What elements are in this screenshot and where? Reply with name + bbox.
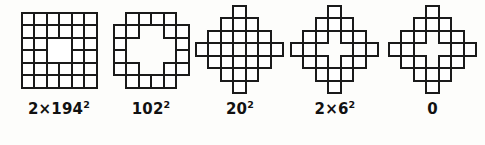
figure-art-3 [194, 0, 285, 100]
grid-cell [329, 19, 341, 31]
grid-cell [21, 12, 33, 24]
grid-cell [246, 31, 258, 43]
grid-cell [176, 62, 188, 74]
grid-cell [21, 37, 33, 49]
grid-cell [439, 69, 451, 81]
grid-cell [366, 44, 378, 56]
grid-cell [163, 12, 175, 24]
grid-cell [341, 56, 353, 68]
grid-cell [316, 69, 328, 81]
grid-cell [316, 19, 328, 31]
grid-cell [84, 62, 96, 74]
figure-label-4-base: 2×6 [315, 100, 349, 118]
grid-cell [234, 56, 246, 68]
polyomino-svg [112, 11, 191, 90]
grid-cell [151, 75, 163, 87]
grid-cell [259, 44, 271, 56]
grid-cell [163, 25, 175, 37]
grid-cell [414, 69, 426, 81]
polyomino-svg [387, 4, 478, 95]
grid-cell [71, 12, 83, 24]
grid-cell [329, 6, 341, 18]
figure-label-2-exponent: 2 [164, 99, 171, 110]
grid-cell [291, 44, 303, 56]
grid-cell [176, 25, 188, 37]
grid-cell [271, 44, 283, 56]
grid-cell [46, 25, 58, 37]
grid-cell [34, 75, 46, 87]
grid-cell [439, 56, 451, 68]
grid-cell [209, 31, 221, 43]
grid-cell [71, 75, 83, 87]
figure-strip: 2×1942 1022 202 2×62 0 [0, 0, 485, 145]
grid-cell [126, 62, 138, 74]
grid-cell [259, 31, 271, 43]
grid-cell [34, 12, 46, 24]
polyomino-svg [20, 11, 99, 90]
grid-cell [34, 37, 46, 49]
grid-cell [113, 62, 125, 74]
grid-cell [221, 19, 233, 31]
grid-cell [21, 50, 33, 62]
figure-label-2-base: 102 [132, 100, 164, 118]
grid-cell [426, 19, 438, 31]
grid-cell [46, 75, 58, 87]
figure-label-2: 1022 [132, 102, 171, 117]
figure-label-4-exponent: 2 [349, 99, 356, 110]
grid-cell [221, 31, 233, 43]
grid-cell [341, 69, 353, 81]
figure-panel-5: 0 [380, 0, 485, 145]
figure-label-1: 2×1942 [28, 102, 90, 117]
grid-cell [46, 12, 58, 24]
figure-panel-3: 202 [190, 0, 290, 145]
grid-cell [21, 25, 33, 37]
grid-cell [126, 12, 138, 24]
grid-cell [176, 37, 188, 49]
grid-cell [163, 62, 175, 74]
grid-cell [401, 31, 413, 43]
grid-cell [304, 56, 316, 68]
grid-cell [126, 25, 138, 37]
grid-cell [426, 6, 438, 18]
figure-label-5: 0 [427, 102, 438, 117]
figure-label-3: 202 [226, 102, 254, 117]
grid-cell [414, 56, 426, 68]
grid-cell [221, 56, 233, 68]
figure-label-1-exponent: 2 [83, 99, 90, 110]
grid-cell [84, 25, 96, 37]
grid-cell [316, 56, 328, 68]
grid-cell [354, 56, 366, 68]
grid-cell [209, 44, 221, 56]
grid-cell [126, 75, 138, 87]
grid-cell [354, 44, 366, 56]
grid-cell [304, 31, 316, 43]
polyomino-svg [289, 4, 380, 95]
grid-cell [163, 75, 175, 87]
grid-cell [451, 31, 463, 43]
grid-cell [221, 69, 233, 81]
grid-cell [259, 56, 271, 68]
grid-cell [439, 31, 451, 43]
grid-cell [341, 19, 353, 31]
grid-cell [46, 62, 58, 74]
grid-cell [59, 12, 71, 24]
grid-cell [246, 69, 258, 81]
grid-cell [414, 31, 426, 43]
grid-cell [84, 50, 96, 62]
grid-cell [71, 62, 83, 74]
grid-cell [464, 44, 476, 56]
grid-cell [246, 44, 258, 56]
grid-cell [234, 69, 246, 81]
grid-cell [209, 56, 221, 68]
grid-cell [426, 81, 438, 93]
grid-cell [426, 69, 438, 81]
figure-label-3-exponent: 2 [247, 99, 254, 110]
grid-cell [451, 56, 463, 68]
grid-cell [329, 81, 341, 93]
grid-cell [34, 50, 46, 62]
grid-cell [304, 44, 316, 56]
figure-label-3-base: 20 [226, 100, 247, 118]
grid-cell [354, 31, 366, 43]
grid-cell [59, 25, 71, 37]
grid-cell [234, 31, 246, 43]
